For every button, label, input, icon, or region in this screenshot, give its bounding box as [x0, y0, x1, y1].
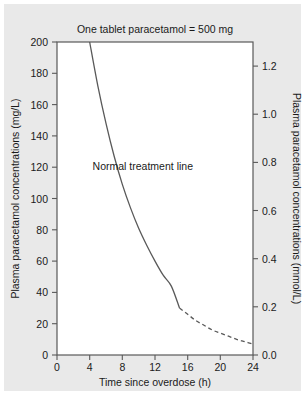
x-tick-label: 8	[119, 361, 125, 373]
left-y-tick-label: 40	[36, 286, 48, 298]
left-y-tick-label: 120	[30, 161, 48, 173]
right-y-tick-label: 0.6	[262, 205, 277, 217]
right-y-axis-tick-labels: 0.0 0.2 0.4 0.6 0.8 1.0 1.2	[262, 60, 277, 361]
plot-area-background	[57, 42, 253, 355]
chart-figure: One tablet paracetamol = 500 mg 200 180 …	[0, 0, 305, 409]
left-y-axis-ticks	[52, 42, 57, 355]
x-tick-label: 0	[54, 361, 60, 373]
right-y-tick-label: 0.0	[262, 349, 277, 361]
right-y-tick-label: 0.2	[262, 301, 277, 313]
right-y-tick-label: 1.2	[262, 60, 277, 72]
x-axis-title: Time since overdose (h)	[99, 376, 211, 388]
right-y-tick-label: 1.0	[262, 108, 277, 120]
left-y-tick-label: 200	[30, 36, 48, 48]
x-axis-ticks	[57, 355, 253, 360]
x-tick-label: 12	[149, 361, 161, 373]
left-y-tick-label: 140	[30, 130, 48, 142]
normal-treatment-line-annotation: Normal treatment line	[93, 160, 194, 172]
nomogram-chart: One tablet paracetamol = 500 mg 200 180 …	[0, 0, 305, 409]
right-y-tick-label: 0.4	[262, 253, 277, 265]
right-y-axis-title: Plasma paracetamol concentrations (mmol/…	[291, 93, 303, 304]
left-y-axis-title: Plasma paracetamol concentrations (mg/L)	[9, 98, 21, 298]
chart-title: One tablet paracetamol = 500 mg	[77, 23, 233, 35]
right-y-axis-ticks	[253, 66, 258, 355]
left-y-tick-label: 20	[36, 318, 48, 330]
left-y-tick-label: 160	[30, 99, 48, 111]
x-tick-label: 16	[182, 361, 194, 373]
left-y-axis-tick-labels: 200 180 160 140 120 100 80 60 40 20 0	[30, 36, 48, 361]
x-tick-label: 24	[247, 361, 259, 373]
x-tick-label: 20	[214, 361, 226, 373]
left-y-tick-label: 60	[36, 255, 48, 267]
left-y-tick-label: 180	[30, 67, 48, 79]
left-y-tick-label: 0	[42, 349, 48, 361]
x-tick-label: 4	[87, 361, 93, 373]
x-axis-tick-labels: 0 4 8 12 16 20 24	[54, 361, 259, 373]
left-y-tick-label: 80	[36, 224, 48, 236]
right-y-tick-label: 0.8	[262, 156, 277, 168]
left-y-tick-label: 100	[30, 193, 48, 205]
